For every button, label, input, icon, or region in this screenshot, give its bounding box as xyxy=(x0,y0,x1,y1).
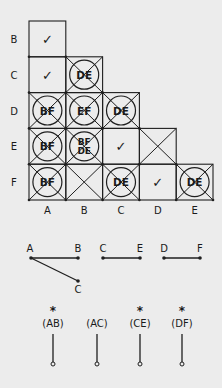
terminal-circle-icon xyxy=(95,362,99,366)
grid-dot xyxy=(28,163,31,166)
grid-dot xyxy=(28,127,31,130)
row-label-c: C xyxy=(11,70,18,81)
col-label-d: D xyxy=(154,205,162,216)
grid-dot xyxy=(101,199,104,202)
check-icon: ✓ xyxy=(116,139,127,154)
closure-class-label: (AB) xyxy=(42,318,64,329)
implication-table-diagram: BCDEFABCDE✓✓DEBFEFDEBFBFDE✓BFDE✓DE ABCCE… xyxy=(0,0,222,388)
cell-f-e: DE xyxy=(176,164,213,200)
closure-class-ab: *(AB) xyxy=(42,304,64,366)
graph-node-label: E xyxy=(137,243,143,254)
check-icon: ✓ xyxy=(42,68,53,83)
row-label-b: B xyxy=(11,34,18,45)
implied-pair: EF xyxy=(77,105,91,117)
terminal-circle-icon xyxy=(180,362,184,366)
cross-out-icon xyxy=(66,164,103,200)
col-label-c: C xyxy=(118,205,125,216)
closure-class-label: (CE) xyxy=(129,318,150,329)
implied-pair: DE xyxy=(113,176,129,188)
grid-dot xyxy=(101,127,104,130)
cell-f-b xyxy=(66,164,103,200)
closure-class-ac: (AC) xyxy=(86,318,108,366)
cell-b-a: ✓ xyxy=(29,21,66,57)
implied-pair: BF xyxy=(40,176,55,188)
graph-edge xyxy=(31,258,78,281)
implied-pair: DE xyxy=(77,146,91,156)
graph-node-c xyxy=(101,256,105,260)
check-icon: ✓ xyxy=(42,32,53,47)
graph-node-d xyxy=(162,256,166,260)
graph-node-label: B xyxy=(75,243,82,254)
closure-classes: *(AB)(AC)*(CE)*(DF) xyxy=(42,304,192,366)
col-label-a: A xyxy=(44,205,51,216)
row-label-f: F xyxy=(11,177,17,188)
grid-dot xyxy=(175,163,178,166)
closure-class-df: *(DF) xyxy=(171,304,192,366)
implied-pair: DE xyxy=(76,69,92,81)
star-icon: * xyxy=(50,304,57,318)
cell-d-a: BF xyxy=(29,93,66,129)
graph-node-f xyxy=(198,256,202,260)
graph-node-label: C xyxy=(75,284,82,295)
cell-d-c: DE xyxy=(103,93,140,129)
grid-dot xyxy=(101,163,104,166)
row-label-e: E xyxy=(11,141,17,152)
grid-dot xyxy=(138,163,141,166)
implication-table: BCDEFABCDE✓✓DEBFEFDEBFBFDE✓BFDE✓DE xyxy=(10,21,214,216)
grid-dot xyxy=(101,91,104,94)
graph-node-label: A xyxy=(27,243,34,254)
graph-node-b xyxy=(76,256,80,260)
grid-dot xyxy=(138,199,141,202)
grid-dot xyxy=(65,199,68,202)
col-label-e: E xyxy=(191,205,197,216)
cell-e-a: BF xyxy=(29,128,66,164)
graph-node-label: F xyxy=(197,243,203,254)
cell-e-c: ✓ xyxy=(103,128,140,164)
implied-pair: DE xyxy=(113,105,129,117)
terminal-circle-icon xyxy=(138,362,142,366)
cell-f-a: BF xyxy=(29,164,66,200)
grid-dot xyxy=(212,199,215,202)
check-icon: ✓ xyxy=(152,175,163,190)
implied-pair: BF xyxy=(40,105,55,117)
implied-pair: DE xyxy=(187,176,203,188)
cross-out-icon xyxy=(139,128,176,164)
graph-node-c xyxy=(76,279,80,283)
cell-f-d: ✓ xyxy=(139,164,176,200)
col-label-b: B xyxy=(81,205,88,216)
grid-dot xyxy=(65,91,68,94)
grid-dot xyxy=(175,199,178,202)
grid-dot xyxy=(138,127,141,130)
cell-e-b: BFDE xyxy=(66,128,103,164)
grid-dot xyxy=(65,56,68,59)
graph-node-label: D xyxy=(160,243,168,254)
grid-dot xyxy=(28,56,31,59)
cell-d-b: EF xyxy=(66,93,103,129)
closure-class-ce: *(CE) xyxy=(129,304,150,366)
grid-dot xyxy=(28,91,31,94)
star-icon: * xyxy=(179,304,186,318)
terminal-circle-icon xyxy=(51,362,55,366)
compatibility-graph: ABCCEDF xyxy=(27,243,204,295)
grid-dot xyxy=(65,163,68,166)
cell-f-c: DE xyxy=(103,164,140,200)
graph-node-label: C xyxy=(100,243,107,254)
grid-dot xyxy=(28,199,31,202)
grid-dot xyxy=(65,127,68,130)
star-icon: * xyxy=(137,304,144,318)
cell-c-a: ✓ xyxy=(29,57,66,93)
row-label-d: D xyxy=(10,106,18,117)
graph-node-e xyxy=(138,256,142,260)
graph-node-a xyxy=(29,256,33,260)
cell-e-d xyxy=(139,128,176,164)
closure-class-label: (AC) xyxy=(86,318,108,329)
implied-pair: BF xyxy=(40,140,55,152)
cell-c-b: DE xyxy=(66,57,103,93)
closure-class-label: (DF) xyxy=(171,318,192,329)
